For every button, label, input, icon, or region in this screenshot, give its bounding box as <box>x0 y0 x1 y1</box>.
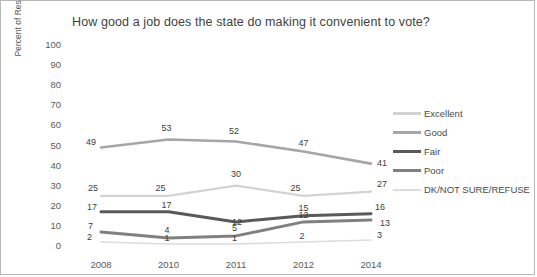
data-point-label: 2 <box>300 232 305 241</box>
data-point-label: 1 <box>165 234 170 243</box>
legend-item[interactable]: Fair <box>393 142 535 161</box>
data-point-label: 13 <box>380 219 390 228</box>
data-point-label: 52 <box>229 127 239 136</box>
legend-color-swatch <box>393 112 421 114</box>
legend-item[interactable]: Excellent <box>393 104 535 123</box>
data-point-label: 25 <box>88 184 98 193</box>
legend-item-label: Excellent <box>424 108 463 119</box>
data-point-label: 17 <box>162 201 172 210</box>
legend-item-label: Fair <box>424 146 440 157</box>
legend-item[interactable]: Good <box>393 123 535 142</box>
data-point-label: 53 <box>162 124 172 133</box>
legend-item-label: Good <box>424 127 447 138</box>
legend-color-swatch <box>393 189 421 191</box>
series-line <box>101 186 371 196</box>
data-point-label: 7 <box>88 222 93 231</box>
chart-legend: ExcellentGoodFairPoorDK/NOT SURE/REFUSE <box>393 104 535 199</box>
legend-color-swatch <box>393 169 421 172</box>
series-line <box>101 140 371 164</box>
legend-item-label: Poor <box>424 165 444 176</box>
data-point-label: 27 <box>377 180 387 189</box>
data-point-label: 3 <box>377 231 382 240</box>
data-point-label: 49 <box>86 138 96 147</box>
data-point-label: 2 <box>87 233 92 242</box>
data-point-label: 12 <box>299 211 309 220</box>
data-point-label: 30 <box>231 170 241 179</box>
legend-item[interactable]: DK/NOT SURE/REFUSE <box>393 180 535 199</box>
data-point-label: 25 <box>156 184 166 193</box>
data-point-label: 5 <box>232 224 237 233</box>
data-point-label: 25 <box>291 184 301 193</box>
data-point-label: 16 <box>375 203 385 212</box>
data-point-label: 41 <box>377 159 387 168</box>
chart-container: How good a job does the state do making … <box>0 0 535 275</box>
legend-item-label: DK/NOT SURE/REFUSE <box>424 184 530 195</box>
legend-color-swatch <box>393 150 421 153</box>
legend-color-swatch <box>393 131 421 134</box>
data-point-label: 47 <box>299 139 309 148</box>
data-point-label: 17 <box>87 203 97 212</box>
data-point-label: 1 <box>232 234 237 243</box>
legend-item[interactable]: Poor <box>393 161 535 180</box>
